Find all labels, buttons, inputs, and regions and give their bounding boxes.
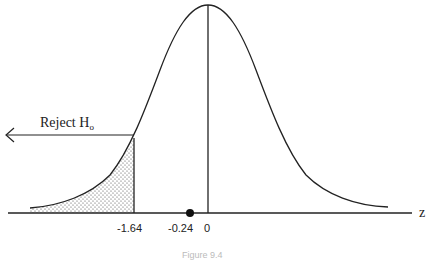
rejection-region-shading xyxy=(30,138,134,213)
tick-zero: 0 xyxy=(204,222,210,234)
test-statistic-point xyxy=(186,209,194,217)
tick-critical-value: -1.64 xyxy=(117,222,142,234)
figure-caption: Figure 9.4 xyxy=(182,250,223,260)
z-axis-label: z xyxy=(419,205,425,221)
normal-curve xyxy=(30,5,388,208)
reject-h0-label: Reject Ho xyxy=(40,115,94,132)
tick-test-statistic: -0.24 xyxy=(168,222,193,234)
